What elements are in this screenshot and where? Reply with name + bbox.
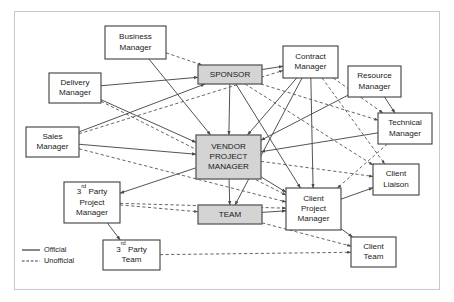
node-business-manager[interactable]: BusinessManager: [105, 26, 166, 59]
stakeholder-diagram: BusinessManagerDeliveryManagerSalesManag…: [0, 0, 454, 302]
node-label-delivery-manager: DeliveryManager: [59, 78, 91, 97]
edge-delivery-manager-to-sponsor: [101, 77, 198, 85]
node-third-party-project-manager[interactable]: 3rd PartyProjectManager: [64, 182, 120, 223]
node-delivery-manager[interactable]: DeliveryManager: [49, 73, 101, 103]
node-sales-manager[interactable]: SalesManager: [26, 127, 79, 157]
node-label-team: TEAM: [219, 210, 242, 219]
edge-team-to-client-project-manager: [262, 211, 286, 213]
edge-third-party-project-manager-to-third-party-team: [107, 223, 120, 240]
edge-vendor-project-manager-to-team: [229, 179, 230, 205]
node-technical-manager[interactable]: TechnicalManager: [378, 113, 432, 144]
node-layer: BusinessManagerDeliveryManagerSalesManag…: [26, 26, 432, 270]
edge-technical-manager-to-vendor-project-manager: [261, 133, 378, 152]
node-team[interactable]: TEAM: [198, 205, 262, 224]
node-label-contract-manager: ContractManager: [295, 52, 327, 71]
edge-third-party-team-to-client-team: [160, 252, 351, 254]
node-label-sponsor: SPONSOR: [210, 70, 251, 79]
diagram-canvas: BusinessManagerDeliveryManagerSalesManag…: [0, 0, 454, 302]
edge-sponsor-to-vendor-project-manager: [229, 84, 230, 135]
edge-vendor-project-manager-to-client-project-manager: [261, 177, 286, 192]
edge-resource-manager-to-technical-manager: [385, 97, 395, 113]
node-contract-manager[interactable]: ContractManager: [283, 46, 338, 78]
node-label-client-liaison: ClientLiaison: [383, 170, 409, 189]
edge-sales-manager-to-vendor-project-manager: [79, 144, 196, 154]
node-label-third-party-project-manager: 3rd PartyProjectManager: [76, 183, 108, 217]
edge-sponsor-to-contract-manager: [262, 66, 283, 69]
node-resource-manager[interactable]: ResourceManager: [348, 66, 401, 97]
node-label-technical-manager: TechnicalManager: [388, 119, 422, 138]
node-label-business-manager: BusinessManager: [119, 33, 152, 52]
legend-official-label: Official: [44, 245, 67, 254]
node-third-party-team[interactable]: 3rd PartyTeam: [103, 240, 160, 270]
legend-unofficial-label: Unofficial: [44, 256, 75, 265]
edge-client-project-manager-to-client-liaison: [341, 188, 373, 199]
edge-delivery-manager-to-vendor-project-manager: [101, 100, 196, 143]
node-client-project-manager[interactable]: ClientProjectManager: [286, 188, 341, 230]
edge-client-project-manager-to-client-team: [341, 229, 353, 237]
edge-business-manager-to-sponsor: [166, 53, 202, 65]
node-client-liaison[interactable]: ClientLiaison: [373, 164, 419, 195]
node-client-team[interactable]: ClientTeam: [351, 237, 396, 267]
edge-vendor-project-manager-to-third-party-project-manager: [120, 168, 196, 193]
edge-third-party-project-manager-to-team: [120, 205, 198, 212]
edge-vendor-project-manager-to-client-liaison: [261, 161, 373, 176]
diagram-legend: OfficialUnofficial: [22, 245, 75, 265]
node-vendor-project-manager[interactable]: VENDORPROJECTMANAGER: [196, 135, 261, 179]
node-sponsor[interactable]: SPONSOR: [198, 65, 262, 84]
edge-contract-manager-to-client-project-manager: [311, 78, 313, 188]
node-label-resource-manager: ResourceManager: [357, 72, 392, 91]
node-label-client-team: ClientTeam: [363, 242, 384, 261]
edge-contract-manager-to-vendor-project-manager: [247, 78, 296, 135]
node-label-vendor-project-manager: VENDORPROJECTMANAGER: [208, 142, 249, 171]
